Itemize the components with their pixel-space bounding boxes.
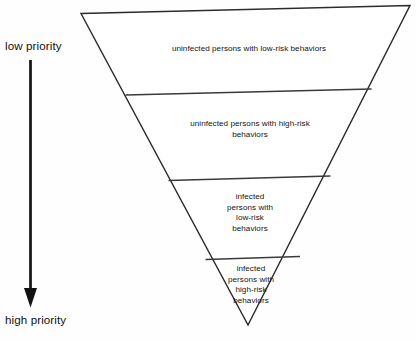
low-priority-label: low priority	[5, 39, 62, 52]
diagram-canvas: low priority high priority uninfected pe…	[0, 0, 416, 341]
priority-arrow-head-icon	[24, 288, 37, 308]
inverted-triangle-outline	[81, 6, 410, 326]
high-priority-label: high priority	[5, 313, 66, 326]
triangle-diagram-graphic	[0, 0, 416, 341]
